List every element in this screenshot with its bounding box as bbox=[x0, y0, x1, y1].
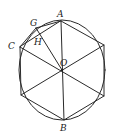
label-H: H bbox=[33, 37, 42, 47]
label-O: O bbox=[60, 58, 68, 68]
hexagon-in-circle-diagram: A G C H O B bbox=[0, 0, 121, 140]
center-point bbox=[61, 69, 63, 71]
label-G: G bbox=[30, 18, 37, 28]
label-B: B bbox=[59, 123, 67, 133]
label-C: C bbox=[8, 41, 15, 51]
label-A: A bbox=[56, 9, 64, 19]
